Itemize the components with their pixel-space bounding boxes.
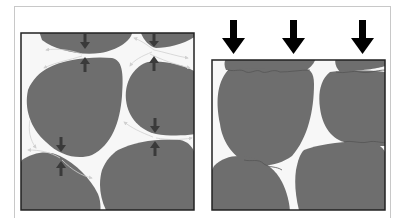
- load-arrow-3: [351, 20, 374, 54]
- grain-contact-diagram: [0, 0, 405, 218]
- load-arrow-1: [222, 20, 245, 54]
- grain-bottom-right-compacted: [295, 141, 388, 214]
- load-arrows: [222, 20, 374, 54]
- right-panel: [210, 20, 388, 214]
- left-panel: [18, 26, 196, 214]
- load-arrow-2: [282, 20, 305, 54]
